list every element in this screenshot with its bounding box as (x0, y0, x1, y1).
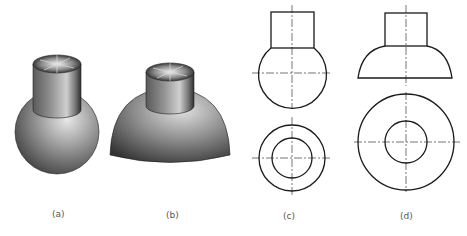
panel-c-front-view (252, 5, 332, 108)
panel-d-front-view (358, 5, 452, 86)
panel-b-3d-model (110, 63, 230, 163)
panel-d-top-view (354, 92, 460, 192)
panel-a-label: (a) (52, 209, 65, 219)
panel-c-orthographic (252, 5, 332, 197)
panel-a-3d-model (15, 55, 99, 174)
panel-d-label: (d) (400, 211, 413, 221)
panel-d-orthographic (354, 5, 460, 192)
panel-c-label: (c) (283, 211, 295, 221)
panel-c-top-view (252, 117, 332, 197)
panel-b-label: (b) (166, 210, 179, 220)
figure-canvas (0, 0, 467, 236)
